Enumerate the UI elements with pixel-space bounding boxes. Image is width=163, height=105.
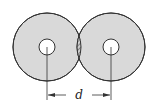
overlapping-discs-diagram: d xyxy=(0,0,163,105)
dimension-label-d: d xyxy=(75,88,83,102)
dimension-arrow-right xyxy=(92,93,110,97)
dimension-arrow-left xyxy=(48,93,66,97)
